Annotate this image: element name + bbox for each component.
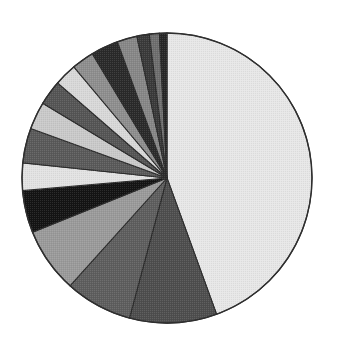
pie-chart-svg [0, 0, 340, 349]
pie-chart-figure: Grayscale pie chart with one dominant li… [0, 0, 340, 349]
pie-texture-overlay [22, 33, 312, 323]
